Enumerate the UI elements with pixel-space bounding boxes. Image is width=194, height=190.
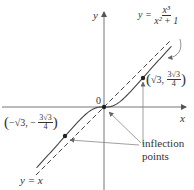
y-axis-label: y bbox=[93, 10, 98, 21]
left-inflection-point bbox=[63, 134, 67, 138]
function-fraction: x³ x² + 1 bbox=[154, 5, 178, 26]
inflection-annotation-line1: inflection bbox=[142, 137, 184, 150]
right-inflection-point bbox=[141, 76, 145, 80]
left-inflection-y: 3√3 4 bbox=[38, 114, 52, 131]
function-denominator: x² + 1 bbox=[154, 16, 178, 26]
left-inflection-label: (−√3, − 3√3 4 ) bbox=[4, 114, 58, 131]
origin-label: 0 bbox=[96, 96, 101, 106]
inflection-annotation-line2: points bbox=[142, 150, 184, 163]
right-inflection-x: √3, bbox=[151, 74, 164, 85]
origin-point bbox=[102, 105, 106, 109]
pointer-to-origin bbox=[109, 112, 141, 143]
inflection-annotation: inflection points bbox=[142, 137, 184, 163]
x-axis-label: x bbox=[180, 113, 185, 124]
asymptote-label: y = x bbox=[20, 175, 43, 186]
right-inflection-y: 3√3 4 bbox=[167, 71, 181, 88]
right-inflection-label: (√3, 3√3 4 ) bbox=[146, 71, 186, 88]
function-label: y = x³ x² + 1 bbox=[138, 5, 178, 26]
left-inflection-x: −√3, bbox=[9, 117, 28, 128]
function-lhs: y = bbox=[138, 9, 152, 20]
